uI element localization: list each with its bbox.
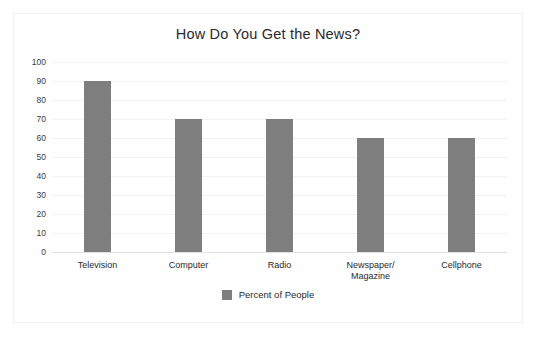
y-tick-label-0: 0 [41,248,46,257]
bar-slot: Cellphone [416,62,507,252]
bar-slot: Television [52,62,143,252]
x-axis-label: Television [78,260,118,271]
x-axis-label: Computer [169,260,209,271]
y-tick-label-40: 40 [37,172,46,181]
y-tick-label-50: 50 [37,153,46,162]
y-tick-label-20: 20 [37,210,46,219]
x-axis-label: Newspaper/ Magazine [346,260,394,282]
chart-legend: Percent of People [14,289,522,300]
legend-swatch-icon [222,290,232,300]
x-axis-label: Radio [268,260,292,271]
y-tick-label-10: 10 [37,229,46,238]
chart-title: How Do You Get the News? [14,26,522,42]
bar[interactable] [84,81,111,252]
bar[interactable] [448,138,475,252]
y-tick-label-100: 100 [32,58,46,67]
legend-item[interactable]: Percent of People [222,289,315,300]
legend-label: Percent of People [239,289,315,300]
chart-container: How Do You Get the News? 100908070605040… [13,13,523,323]
bar-slot: Computer [143,62,234,252]
bar[interactable] [357,138,384,252]
bar-slot: Newspaper/ Magazine [325,62,416,252]
y-tick-label-60: 60 [37,134,46,143]
y-tick-label-30: 30 [37,191,46,200]
plot-area: 1009080706050403020100 TelevisionCompute… [52,62,507,252]
x-axis-label: Cellphone [441,260,482,271]
y-tick-label-90: 90 [37,77,46,86]
y-tick-label-80: 80 [37,96,46,105]
bar-slot: Radio [234,62,325,252]
gridline-0 [52,252,507,253]
bar[interactable] [175,119,202,252]
y-tick-label-70: 70 [37,115,46,124]
bar[interactable] [266,119,293,252]
bar-group: TelevisionComputerRadioNewspaper/ Magazi… [52,62,507,252]
